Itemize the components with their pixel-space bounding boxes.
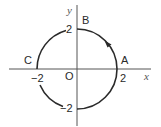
origin-label: O: [65, 70, 74, 82]
point-label-b: B: [82, 14, 89, 26]
x-axis-label: x: [143, 70, 149, 82]
circle-arc-upper-left: [37, 31, 66, 70]
point-label-c: C: [24, 54, 32, 66]
y-axis-label: y: [66, 4, 72, 16]
tick-label-y-pos: 2: [66, 23, 72, 35]
tick-label-x-neg: −2: [31, 72, 44, 84]
tick-label-y-neg: −2: [60, 102, 73, 114]
tick-label-x-pos: 2: [120, 72, 126, 84]
point-label-a: A: [121, 54, 129, 66]
circle-diagram: y x O B A C 2 2 −2 −2: [0, 0, 161, 127]
